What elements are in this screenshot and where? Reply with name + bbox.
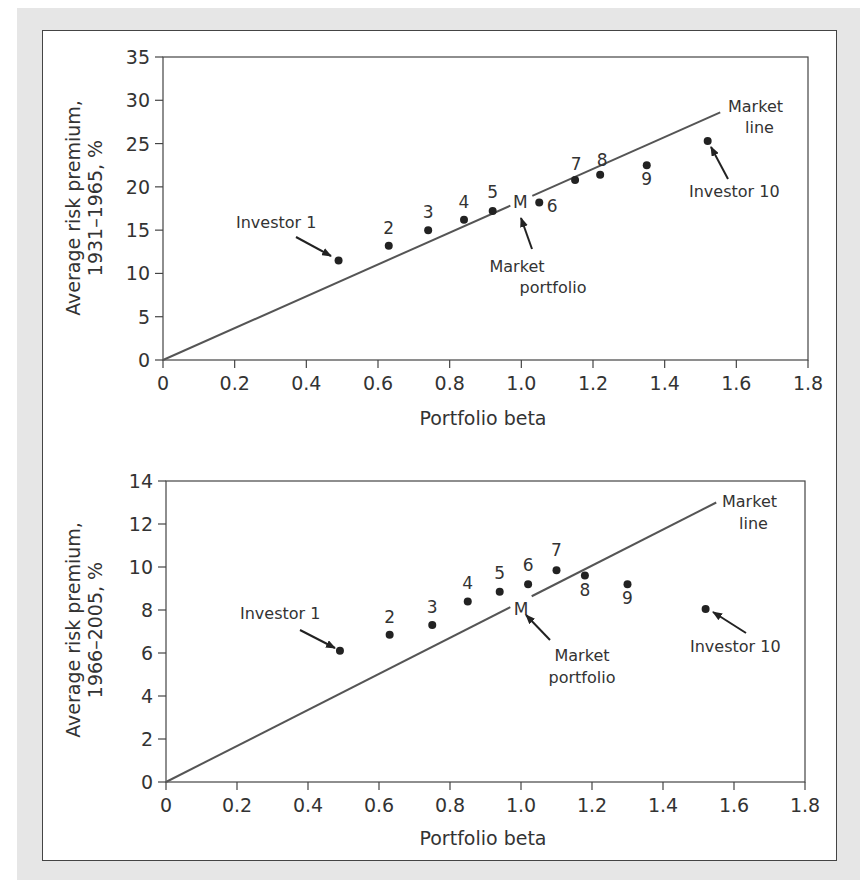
x-tick-label: 0.6 bbox=[363, 372, 393, 394]
x-tick-label: 0 bbox=[157, 372, 169, 394]
arrow-icon bbox=[526, 615, 550, 640]
y-axis: 05101520253035 bbox=[126, 46, 163, 371]
chart-1966-2005: 02468101214 00.20.40.60.81.01.21.41.61.8… bbox=[62, 470, 820, 849]
arrow-icon bbox=[296, 237, 331, 256]
market-portfolio-label-1: Market bbox=[490, 257, 545, 276]
data-point bbox=[571, 176, 579, 184]
data-point bbox=[624, 580, 632, 588]
y-tick-label: 14 bbox=[129, 470, 153, 492]
market-portfolio-label-2: portfolio bbox=[549, 668, 616, 687]
x-axis-label: Portfolio beta bbox=[419, 827, 546, 849]
svg-text:Average risk premium,: Average risk premium, bbox=[62, 522, 84, 738]
point-label: 7 bbox=[571, 154, 582, 174]
investor-1-label: Investor 1 bbox=[236, 213, 316, 232]
point-label: 3 bbox=[423, 202, 434, 222]
y-tick-label: 30 bbox=[126, 89, 150, 111]
y-tick-label: 0 bbox=[141, 771, 153, 793]
market-line-segment bbox=[166, 607, 510, 782]
data-point bbox=[496, 588, 504, 596]
data-point bbox=[596, 171, 604, 179]
data-point bbox=[386, 631, 394, 639]
point-label: 5 bbox=[487, 182, 498, 202]
y-tick-label: 4 bbox=[141, 685, 153, 707]
data-point bbox=[581, 572, 589, 580]
y-tick-label: 20 bbox=[126, 176, 150, 198]
investor-10-label: Investor 10 bbox=[689, 182, 780, 201]
x-tick-label: 0.6 bbox=[364, 794, 394, 816]
y-tick-label: 15 bbox=[126, 219, 150, 241]
data-point bbox=[643, 161, 651, 169]
market-line-segment bbox=[163, 206, 510, 360]
x-tick-label: 1.4 bbox=[648, 794, 678, 816]
arrow-icon bbox=[521, 218, 532, 249]
x-tick-label: 0.2 bbox=[222, 794, 252, 816]
svg-text:1966–2005, %: 1966–2005, % bbox=[84, 562, 106, 698]
market-line-label-2: line bbox=[739, 514, 768, 533]
data-point bbox=[524, 580, 532, 588]
data-point bbox=[553, 566, 561, 574]
y-axis-label: Average risk premium, 1931–1965, % bbox=[62, 100, 106, 316]
y-tick-label: 10 bbox=[126, 262, 150, 284]
x-tick-label: 0.4 bbox=[293, 794, 323, 816]
market-portfolio-label-2: portfolio bbox=[520, 278, 587, 297]
x-axis: 00.20.40.60.81.01.21.41.61.8 bbox=[160, 782, 820, 816]
arrow-icon bbox=[711, 147, 728, 179]
y-axis: 02468101214 bbox=[129, 470, 166, 793]
y-tick-label: 35 bbox=[126, 46, 150, 68]
data-point bbox=[489, 207, 497, 215]
y-axis-label: Average risk premium, 1966–2005, % bbox=[62, 522, 106, 738]
y-tick-label: 6 bbox=[141, 642, 153, 664]
x-axis-label: Portfolio beta bbox=[419, 407, 546, 429]
data-point bbox=[335, 256, 343, 264]
x-tick-label: 1.4 bbox=[650, 372, 680, 394]
y-tick-label: 5 bbox=[138, 306, 150, 328]
arrow-icon bbox=[300, 630, 335, 648]
market-line: M bbox=[163, 112, 720, 360]
point-label: 8 bbox=[597, 150, 608, 170]
market-portfolio-marker: M bbox=[513, 192, 528, 212]
point-label: 6 bbox=[523, 555, 534, 575]
point-label: 5 bbox=[494, 563, 505, 583]
x-tick-label: 1.0 bbox=[506, 794, 536, 816]
svg-text:Average risk premium,: Average risk premium, bbox=[62, 100, 84, 316]
plot-frame bbox=[163, 57, 808, 360]
x-tick-label: 1.8 bbox=[793, 372, 823, 394]
x-tick-label: 1.8 bbox=[790, 794, 820, 816]
point-label: 4 bbox=[462, 573, 473, 593]
data-point bbox=[460, 216, 468, 224]
x-axis: 00.20.40.60.81.01.21.41.61.8 bbox=[157, 360, 823, 394]
data-point bbox=[424, 226, 432, 234]
chart-1931-1965: 05101520253035 00.20.40.60.81.01.21.41.6… bbox=[62, 46, 823, 429]
x-tick-label: 0.4 bbox=[291, 372, 321, 394]
investor-1-label: Investor 1 bbox=[240, 604, 320, 623]
point-label: 8 bbox=[579, 580, 590, 600]
data-point bbox=[535, 198, 543, 206]
x-tick-label: 0 bbox=[160, 794, 172, 816]
x-tick-label: 0.8 bbox=[435, 794, 465, 816]
market-line-label-1: Market bbox=[722, 492, 777, 511]
y-tick-label: 8 bbox=[141, 599, 153, 621]
x-tick-label: 1.6 bbox=[719, 794, 749, 816]
data-point bbox=[385, 242, 393, 250]
y-tick-label: 10 bbox=[129, 556, 153, 578]
plot-frame bbox=[166, 481, 805, 782]
point-label: 4 bbox=[459, 192, 470, 212]
market-portfolio-label-1: Market bbox=[555, 646, 610, 665]
arrow-icon bbox=[713, 612, 746, 633]
market-line-label-1: Market bbox=[728, 97, 783, 116]
data-point bbox=[428, 621, 436, 629]
data-point bbox=[702, 605, 710, 613]
charts-svg: 05101520253035 00.20.40.60.81.01.21.41.6… bbox=[0, 0, 860, 890]
point-label: 2 bbox=[383, 218, 394, 238]
y-tick-label: 0 bbox=[138, 349, 150, 371]
point-label: 6 bbox=[547, 196, 558, 216]
svg-text:1931–1965, %: 1931–1965, % bbox=[84, 140, 106, 276]
x-tick-label: 1.0 bbox=[506, 372, 536, 394]
point-label: 9 bbox=[641, 169, 652, 189]
x-tick-label: 1.6 bbox=[721, 372, 751, 394]
y-tick-label: 25 bbox=[126, 133, 150, 155]
market-line-label-2: line bbox=[745, 118, 774, 137]
y-tick-label: 12 bbox=[129, 513, 153, 535]
data-points: 23456789 bbox=[336, 540, 710, 655]
x-tick-label: 1.2 bbox=[577, 794, 607, 816]
